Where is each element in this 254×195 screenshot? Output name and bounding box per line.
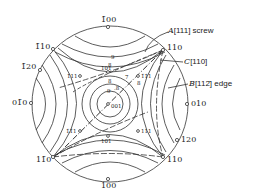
pole-label-inner-upper-left: 1̄11 xyxy=(67,73,78,79)
contour-label: 8 xyxy=(108,62,112,68)
contour-label: .8 xyxy=(114,85,119,91)
contour-label: 8 xyxy=(108,78,112,84)
pole-label-upper-left-2: 1̄20 xyxy=(21,63,36,71)
pole-label-right: 010 xyxy=(191,100,206,108)
contour-label: 9 xyxy=(107,88,111,94)
pole-label-lower-right-1: 120 xyxy=(181,136,196,144)
pole-label-inner-upper-right: 1̄1̄1 xyxy=(141,73,152,79)
leader-b xyxy=(168,84,188,88)
pole-label-inner-lower-right: 111 xyxy=(141,128,152,134)
pole-label-bottom: 100 xyxy=(101,182,116,190)
pole-label-center: 001 xyxy=(111,103,122,109)
pole-label-lower-right-2: 110 xyxy=(167,156,182,164)
pole-label-left: 01̄0 xyxy=(12,99,27,107)
contour-label: 8 xyxy=(137,80,141,86)
pole-label-upper-right: 110 xyxy=(167,44,182,52)
pole-label-inner-lower-left: 1̄1̄1 xyxy=(66,128,77,134)
contour-label: 7 xyxy=(125,74,129,80)
pole-label-inner-lower: 101 xyxy=(101,138,112,144)
stereographic-projection xyxy=(0,0,254,195)
annotation-c: C[110] xyxy=(184,58,207,66)
annotation-a: A[111] screw xyxy=(168,27,214,35)
pole-label-lower-left: 11̄0 xyxy=(36,156,51,164)
pole-label-top: 1̄00 xyxy=(101,16,116,24)
leader-c xyxy=(160,60,183,62)
annotation-b: B[112̄] edge xyxy=(189,80,232,88)
contour-label: 9 xyxy=(111,54,115,60)
pole-label-upper-left-1: 1̄10 xyxy=(35,43,50,51)
